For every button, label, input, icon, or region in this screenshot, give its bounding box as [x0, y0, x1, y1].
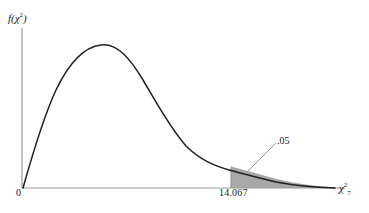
x-axis-label-superscript: 2: [344, 181, 348, 189]
chi-square-distribution-figure: f(χ2) χ27 0 14.067 .05: [0, 0, 369, 213]
plot-canvas: [0, 0, 369, 213]
origin-tick-label: 0: [16, 188, 21, 198]
tail-area-annotation-label: .05: [277, 136, 290, 146]
x-axis-label: χ27: [339, 182, 351, 197]
annotation-leader-line: [245, 143, 276, 174]
y-axis-label-paren: ): [23, 12, 27, 24]
y-axis-label-f: f(: [8, 12, 15, 24]
critical-value-tick-label: 14.067: [219, 188, 248, 198]
x-axis-label-subscript: 7: [347, 189, 351, 197]
shaded-tail-region: [231, 167, 335, 189]
y-axis-label: f(χ2): [8, 12, 27, 24]
density-curve: [23, 45, 335, 188]
